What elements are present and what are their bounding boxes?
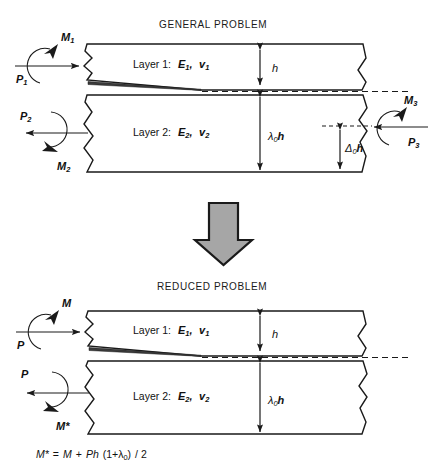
figure-root: GENERAL PROBLEM Layer 1: E1, v1 bbox=[0, 0, 441, 468]
reduced-dimension-lambda0h: λ0h bbox=[260, 363, 285, 432]
general-layer1-label: Layer 1: E1, v1 bbox=[133, 58, 209, 72]
reduced-layer2-label: Layer 2: E2, v2 bbox=[133, 390, 210, 404]
general-load-left-bottom: P2 M2 bbox=[20, 110, 88, 174]
general-moment-M3-label: M3 bbox=[404, 94, 418, 108]
reduced-load-left-top: M P bbox=[16, 297, 80, 351]
svg-text:h: h bbox=[272, 62, 278, 74]
svg-text:Layer 1:: Layer 1: bbox=[133, 58, 171, 70]
svg-text:M*=M+Ph(1+λ0)/ 2: M*=M+Ph(1+λ0)/ 2 bbox=[36, 448, 147, 462]
diagram-canvas: GENERAL PROBLEM Layer 1: E1, v1 bbox=[0, 0, 441, 468]
general-crack-wedge bbox=[88, 82, 201, 91]
svg-text:Layer 2:: Layer 2: bbox=[133, 390, 171, 402]
svg-text:E2,: E2, bbox=[178, 390, 193, 404]
svg-text:E1,: E1, bbox=[178, 58, 193, 72]
svg-text:E1,: E1, bbox=[178, 324, 193, 338]
general-moment-M2-arc bbox=[48, 112, 67, 147]
general-dimension-lambda0h: λ0h bbox=[260, 97, 285, 170]
reduced-force-P-top-label: P bbox=[17, 339, 25, 351]
reduced-moment-M-label: M bbox=[62, 297, 72, 309]
svg-text:v2: v2 bbox=[199, 126, 210, 140]
reduced-moment-Mstar-arc bbox=[49, 372, 68, 407]
reduced-layer1-body bbox=[85, 311, 366, 356]
general-layer2-body bbox=[84, 95, 367, 172]
reduced-layer1-label: Layer 1: E1, v1 bbox=[133, 324, 209, 338]
reduced-load-left-bottom: P M* bbox=[21, 368, 89, 432]
moment-equation: M*=M+Ph(1+λ0)/ 2 bbox=[36, 448, 147, 462]
svg-text:λ0h: λ0h bbox=[267, 130, 285, 144]
svg-text:h: h bbox=[272, 328, 278, 340]
down-block-arrow-icon bbox=[195, 203, 252, 265]
general-problem-title: GENERAL PROBLEM bbox=[159, 19, 267, 30]
general-layer1-body bbox=[84, 44, 366, 90]
svg-text:v1: v1 bbox=[199, 324, 209, 338]
svg-text:λ0h: λ0h bbox=[267, 394, 285, 408]
svg-text:Layer 2:: Layer 2: bbox=[133, 126, 171, 138]
general-load-right: M3 P3 bbox=[374, 94, 428, 150]
general-moment-M3-arrowhead bbox=[393, 107, 407, 122]
svg-text:Layer 1:: Layer 1: bbox=[133, 324, 171, 336]
reduced-moment-Mstar-label: M* bbox=[56, 420, 70, 432]
general-force-P1-label: P1 bbox=[16, 73, 28, 87]
svg-text:E2,: E2, bbox=[178, 126, 193, 140]
svg-text:v2: v2 bbox=[199, 390, 210, 404]
general-dimension-h: h bbox=[260, 50, 278, 85]
svg-text:v1: v1 bbox=[199, 58, 209, 72]
reduced-moment-M-arrowhead bbox=[45, 310, 59, 325]
svg-text:Δ0h: Δ0h bbox=[344, 142, 364, 156]
general-load-left-top: M1 P1 bbox=[15, 31, 79, 87]
general-moment-M2-label: M2 bbox=[57, 160, 71, 174]
general-moment-M1-arrowhead bbox=[44, 44, 58, 59]
general-force-P2-label: P2 bbox=[20, 110, 32, 124]
reduced-dimension-h: h bbox=[260, 316, 278, 351]
reduced-force-P-bottom-label: P bbox=[21, 368, 29, 380]
reduced-layer2-body bbox=[85, 361, 367, 434]
general-layer2-label: Layer 2: E2, v2 bbox=[133, 126, 210, 140]
general-moment-M1-label: M1 bbox=[61, 31, 74, 45]
reduced-problem-title: REDUCED PROBLEM bbox=[157, 281, 267, 292]
general-force-P3-label: P3 bbox=[408, 136, 420, 150]
reduced-crack-wedge bbox=[89, 348, 201, 357]
